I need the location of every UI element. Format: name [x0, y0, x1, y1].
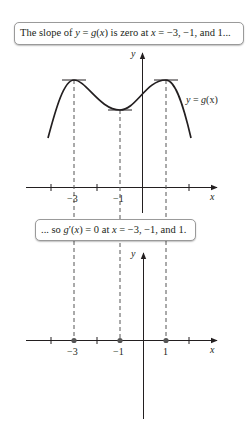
top-tick-label-neg1: −1 [113, 194, 124, 204]
curve-g [48, 80, 191, 138]
text: ) is zero at [104, 27, 151, 38]
callout-slope-zero: The slope of y = g(x) is zero at x = −3,… [14, 22, 244, 45]
text: = [80, 27, 91, 38]
zero-point-1 [163, 338, 168, 343]
callout-derivative-zero: ... so g′(x) = 0 at x = −3, −1, and 1. [35, 219, 196, 241]
text: = [190, 94, 201, 105]
zero-point-neg3 [71, 338, 76, 343]
text: ... so [41, 224, 63, 235]
figure-canvas [0, 0, 250, 436]
text: (x) [206, 94, 218, 105]
text: = −3, −1, and 1... [156, 27, 231, 38]
bottom-tick-label-1: 1 [163, 347, 168, 357]
bottom-tick-label-neg3: −3 [67, 347, 78, 357]
top-dashed-guides [74, 80, 166, 340]
horizontal-tangents [62, 80, 178, 110]
zero-point-neg1 [117, 338, 122, 343]
bottom-tick-label-neg1: −1 [113, 347, 124, 357]
bottom-graph [26, 253, 217, 419]
text: The slope of [20, 27, 75, 38]
bottom-x-axis-label: x [210, 345, 214, 355]
text: ) = 0 at [79, 224, 112, 235]
text: = −3, −1, and 1. [117, 224, 187, 235]
curve-label: y = g(x) [186, 95, 218, 105]
top-y-axis-label: y [131, 49, 135, 59]
bottom-y-axis-label: y [131, 249, 135, 259]
top-tick-label-neg3: −3 [67, 194, 78, 204]
top-x-axis-label: x [210, 192, 214, 202]
